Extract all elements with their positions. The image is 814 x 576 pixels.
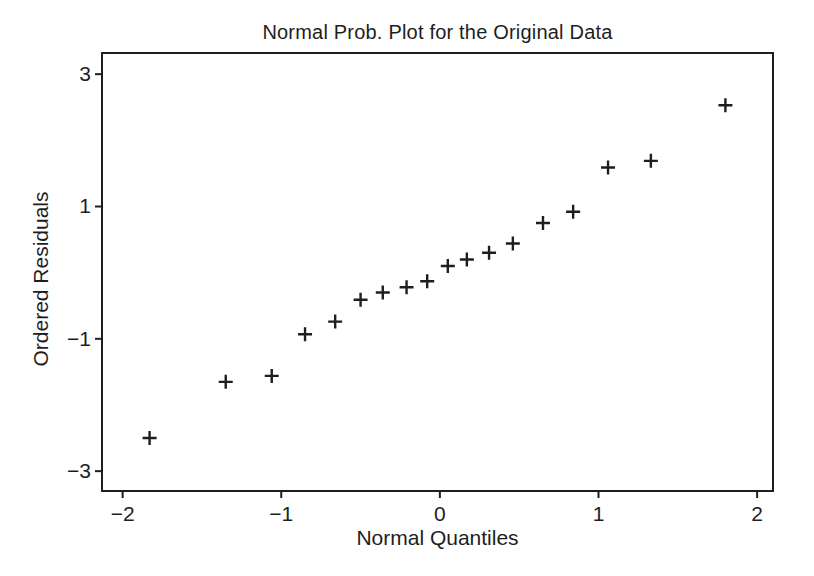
data-point-marker	[482, 246, 496, 260]
data-point-marker	[376, 286, 390, 300]
y-tick-label: −1	[67, 327, 91, 350]
data-point-marker	[601, 160, 615, 174]
x-tick-label: 2	[751, 502, 763, 525]
data-point-marker	[566, 205, 580, 219]
data-point-marker	[718, 98, 732, 112]
x-tick-label: 1	[593, 502, 605, 525]
data-point-marker	[265, 369, 279, 383]
data-point-marker	[441, 259, 455, 273]
x-tick-label: −1	[269, 502, 293, 525]
plot-svg: −2−1012−3−113	[0, 0, 814, 576]
y-tick-label: 3	[79, 62, 91, 85]
normal-probability-plot-figure: Normal Prob. Plot for the Original Data …	[0, 0, 814, 576]
data-point-marker	[460, 252, 474, 266]
x-tick-label: 0	[434, 502, 446, 525]
x-tick-label: −2	[111, 502, 135, 525]
data-point-marker	[298, 327, 312, 341]
plot-box	[102, 53, 773, 491]
data-point-marker	[506, 237, 520, 251]
data-point-marker	[400, 280, 414, 294]
data-point-marker	[536, 216, 550, 230]
y-tick-label: 1	[79, 194, 91, 217]
y-tick-label: −3	[67, 459, 91, 482]
data-point-marker	[354, 293, 368, 307]
data-point-marker	[219, 375, 233, 389]
data-point-marker	[644, 154, 658, 168]
data-point-marker	[420, 274, 434, 288]
data-point-marker	[143, 431, 157, 445]
data-point-marker	[328, 315, 342, 329]
